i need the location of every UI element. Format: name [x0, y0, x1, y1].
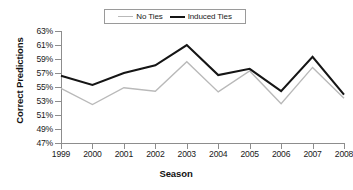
legend-line-swatch-no-ties	[118, 16, 133, 17]
x-axis-ticks: 1999200020012002200320042005200620072008	[61, 144, 344, 150]
series-line-induced-ties	[61, 45, 344, 95]
legend-label-induced-ties: Induced Ties	[188, 12, 232, 21]
legend-line-swatch-induced-ties	[170, 16, 185, 18]
x-tick-label: 2007	[303, 150, 321, 159]
x-tick-label: 2006	[272, 150, 290, 159]
y-tick-label: 61%	[36, 41, 53, 50]
x-tick-label: 2003	[178, 150, 196, 159]
x-tick-label: 2001	[115, 150, 133, 159]
x-axis-title: Season	[0, 168, 352, 179]
x-tick-label: 1999	[52, 150, 70, 159]
x-tick-label: 2000	[83, 150, 101, 159]
series-lines	[61, 31, 344, 143]
legend-label-no-ties: No Ties	[136, 12, 162, 21]
y-axis-title: Correct Predictions	[14, 21, 25, 141]
y-tick-label: 59%	[36, 55, 53, 64]
x-tick-label: 2005	[240, 150, 258, 159]
chart-legend: No Ties Induced Ties	[104, 9, 246, 24]
y-tick-label: 47%	[36, 139, 53, 148]
y-tick-label: 51%	[36, 111, 53, 120]
y-tick-label: 49%	[36, 125, 53, 134]
x-tick-label: 2004	[209, 150, 227, 159]
y-tick-label: 63%	[36, 27, 53, 36]
plot-area	[61, 31, 344, 143]
y-tick-label: 57%	[36, 69, 53, 78]
legend-entry-induced-ties: Induced Ties	[170, 12, 232, 21]
y-tick-label: 55%	[36, 83, 53, 92]
x-tick-label: 2002	[146, 150, 164, 159]
x-tick-label: 2008	[335, 150, 353, 159]
y-tick-label: 53%	[36, 97, 53, 106]
legend-entry-no-ties: No Ties	[118, 12, 162, 21]
